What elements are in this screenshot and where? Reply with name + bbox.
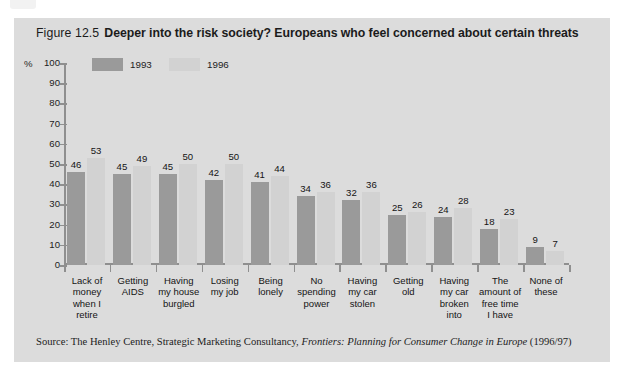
y-axis-tick-label: 30 — [34, 198, 60, 209]
bar-value-label: 45 — [111, 161, 133, 172]
source-year: (1996/97) — [530, 336, 572, 347]
bar-1996[interactable] — [500, 219, 518, 265]
x-axis-tick — [202, 265, 204, 272]
figure-panel: Figure 12.5Deeper into the risk society?… — [14, 18, 610, 362]
bar-group: 4653 — [64, 63, 110, 265]
bar-group: 4250 — [202, 63, 248, 265]
bar-value-label: 50 — [177, 151, 199, 162]
bar-value-label: 26 — [406, 199, 428, 210]
bar-value-label: 45 — [157, 161, 179, 172]
y-axis-tick-label: 50 — [34, 158, 60, 169]
bar-group: 3436 — [294, 63, 340, 265]
bar-group: 2526 — [385, 63, 431, 265]
y-axis-tick-label: 40 — [34, 178, 60, 189]
bar-value-label: 34 — [295, 183, 317, 194]
source-prefix: Source: — [36, 336, 68, 347]
y-axis-tick-label: 90 — [34, 77, 60, 88]
source-body: The Henley Centre, Strategic Marketing C… — [71, 336, 299, 347]
x-axis-tick — [431, 265, 433, 272]
bar-value-label: 28 — [452, 195, 474, 206]
bar-group: 4144 — [248, 63, 294, 265]
bar-value-label: 50 — [223, 151, 245, 162]
x-axis-tick — [248, 265, 250, 272]
bar-1996[interactable] — [271, 176, 289, 265]
chart-plot-area: % 0102030405060708090100 19931996 465345… — [14, 18, 610, 362]
bar-groups: 4653454945504250414434363236252624281823… — [64, 63, 569, 265]
bar-value-label: 36 — [360, 179, 382, 190]
bar-1993[interactable] — [342, 200, 360, 265]
y-axis-tick-label: 20 — [34, 219, 60, 230]
bar-1993[interactable] — [526, 247, 544, 265]
bar-1996[interactable] — [362, 192, 380, 265]
y-axis-tick-label: 60 — [34, 138, 60, 149]
bar-value-label: 49 — [131, 153, 153, 164]
bar-value-label: 32 — [340, 187, 362, 198]
bar-1993[interactable] — [434, 217, 452, 265]
bar-1996[interactable] — [454, 208, 472, 265]
bar-1996[interactable] — [133, 166, 151, 265]
bar-1993[interactable] — [480, 229, 498, 265]
y-axis-labels: 0102030405060708090100 — [22, 18, 60, 362]
bar-value-label: 24 — [432, 204, 454, 215]
x-axis-tick — [339, 265, 341, 272]
bar-1996[interactable] — [179, 164, 197, 265]
bar-1993[interactable] — [297, 196, 315, 265]
bar-value-label: 25 — [386, 202, 408, 213]
bar-1993[interactable] — [113, 174, 131, 265]
figure-source: Source: The Henley Centre, Strategic Mar… — [36, 336, 594, 347]
category-label: None ofthese — [519, 275, 573, 298]
bar-value-label: 18 — [478, 216, 500, 227]
bar-1993[interactable] — [205, 180, 223, 265]
bar-group: 4550 — [156, 63, 202, 265]
bar-value-label: 46 — [65, 159, 87, 170]
bar-group: 2428 — [431, 63, 477, 265]
x-axis-tick — [477, 265, 479, 272]
bar-value-label: 53 — [85, 145, 107, 156]
x-axis-tick — [294, 265, 296, 272]
x-axis-tick — [385, 265, 387, 272]
x-axis-tick — [569, 265, 571, 272]
bar-1996[interactable] — [408, 212, 426, 265]
bar-value-label: 9 — [524, 234, 546, 245]
bar-1993[interactable] — [159, 174, 177, 265]
bar-1993[interactable] — [251, 182, 269, 265]
bar-group: 4549 — [110, 63, 156, 265]
bar-group: 97 — [523, 63, 569, 265]
bar-group: 1823 — [477, 63, 523, 265]
bar-value-label: 23 — [498, 206, 520, 217]
bar-1996[interactable] — [225, 164, 243, 265]
bar-value-label: 41 — [249, 169, 271, 180]
bar-value-label: 36 — [315, 179, 337, 190]
bar-value-label: 44 — [269, 163, 291, 174]
y-axis-tick-label: 100 — [34, 57, 60, 68]
bar-1996[interactable] — [87, 158, 105, 265]
y-axis-tick-label: 80 — [34, 97, 60, 108]
y-axis-tick-label: 0 — [34, 259, 60, 270]
bar-1996[interactable] — [546, 251, 564, 265]
bar-1993[interactable] — [388, 215, 406, 266]
bar-group: 3236 — [339, 63, 385, 265]
x-axis-tick — [110, 265, 112, 272]
page-edge-artifact — [10, 0, 36, 9]
x-axis-tick — [156, 265, 158, 272]
bar-1996[interactable] — [317, 192, 335, 265]
y-axis-tick-label: 70 — [34, 118, 60, 129]
bar-value-label: 42 — [203, 167, 225, 178]
bar-1993[interactable] — [67, 172, 85, 265]
y-axis-tick-label: 10 — [34, 239, 60, 250]
x-axis-tick — [523, 265, 525, 272]
source-publication-title: Frontiers: Planning for Consumer Change … — [301, 336, 527, 347]
x-axis-tick — [64, 265, 66, 272]
bar-value-label: 7 — [544, 238, 566, 249]
